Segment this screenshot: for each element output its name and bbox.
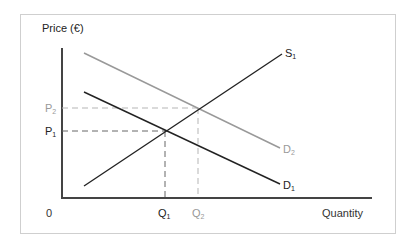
d2-label: D2 bbox=[283, 143, 295, 156]
origin-label: 0 bbox=[46, 207, 52, 219]
y-axis-title: Price (€) bbox=[42, 22, 84, 34]
p1-label: P1 bbox=[45, 125, 56, 138]
supply-curve-s1 bbox=[84, 54, 282, 186]
d1-label: D1 bbox=[283, 179, 295, 192]
q1-label: Q1 bbox=[158, 207, 171, 220]
p2-label: P2 bbox=[45, 102, 56, 115]
demand-curve-d1 bbox=[84, 92, 280, 184]
supply-demand-chart: Price (€) Quantity 0 S1 D2 D1 P2 P1 Q1 Q… bbox=[0, 0, 406, 246]
s1-label: S1 bbox=[285, 47, 296, 60]
x-axis-title: Quantity bbox=[322, 207, 363, 219]
q2-label: Q2 bbox=[192, 207, 205, 220]
demand-curve-d2 bbox=[84, 53, 280, 148]
